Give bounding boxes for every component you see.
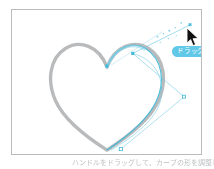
drag-badge: ドラッグ (172, 46, 202, 57)
figure-caption: ハンドルをドラッグして、カーブの形を調整します (72, 159, 214, 168)
anchor-heart-right-top (131, 52, 134, 55)
figure-root: ドラッグ ハンドルをドラッグして、カーブの形を調整します (0, 0, 214, 169)
arrow-pointer-icon (186, 27, 200, 47)
bezier-preview-curve (111, 53, 162, 150)
drawing-canvas[interactable]: ドラッグ (11, 9, 202, 155)
anchor-heart-center-notch (105, 64, 108, 67)
drag-motion-trail (157, 22, 183, 43)
artwork-layer (12, 10, 201, 154)
caption-strip: ハンドルをドラッグして、カーブの形を調整します (0, 159, 214, 169)
anchor-heart-bottom-tip (119, 147, 122, 150)
heart-template (51, 44, 164, 150)
direction-handle-lines (111, 25, 190, 149)
handle-knob-lower-right (183, 95, 186, 98)
handle-knob-upper-right (189, 23, 192, 26)
path-anchor-points[interactable] (105, 23, 191, 150)
